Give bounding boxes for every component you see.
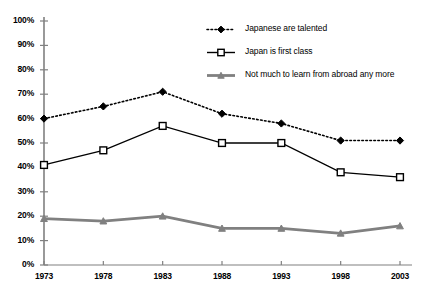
y-axis-tick-label: 50% (0, 137, 34, 147)
chart-series-group (40, 88, 403, 236)
y-axis-tick-label: 10% (0, 235, 34, 245)
chart-plot-area (0, 0, 423, 300)
y-axis-tick-label: 90% (0, 39, 34, 49)
legend-label: Japanese are talented (245, 23, 327, 33)
series-3 (41, 213, 404, 236)
data-point-diamond (396, 137, 403, 144)
x-axis-tick-label: 1983 (143, 271, 183, 281)
y-axis-tick-label: 0% (0, 259, 34, 269)
y-axis-tick-label: 40% (0, 161, 34, 171)
legend-label: Japan is first class (245, 46, 312, 56)
y-axis-tick-label: 100% (0, 15, 34, 25)
legend-marker-icon (205, 70, 241, 81)
legend-marker-icon (205, 24, 241, 35)
data-point-diamond (337, 137, 344, 144)
x-axis-tick-label: 1978 (83, 271, 123, 281)
y-axis-tick-label: 20% (0, 210, 34, 220)
x-axis-tick-label: 1973 (24, 271, 64, 281)
data-point-square (41, 162, 48, 169)
data-point-diamond (278, 120, 285, 127)
x-axis-tick-label: 1993 (261, 271, 301, 281)
data-point-diamond (40, 115, 47, 122)
data-point-square (337, 169, 344, 176)
y-axis-tick-label: 30% (0, 186, 34, 196)
legend-marker-icon (205, 47, 241, 58)
series-1 (40, 88, 403, 144)
x-axis-tick-label: 2003 (380, 271, 420, 281)
legend-label: Not much to learn from abroad any more (245, 69, 394, 79)
data-point-diamond (218, 110, 225, 117)
x-axis-tick-label: 1988 (202, 271, 242, 281)
x-axis-tick-label: 1998 (321, 271, 361, 281)
series-line (44, 126, 400, 177)
line-chart: 0%10%20%30%40%50%60%70%80%90%100% 197319… (0, 0, 423, 300)
data-point-square (159, 123, 166, 130)
legend-marker-square (218, 49, 224, 55)
series-2 (41, 123, 404, 181)
data-point-square (100, 147, 107, 154)
y-axis-tick-label: 80% (0, 64, 34, 74)
data-point-square (278, 140, 285, 147)
legend-marker-diamond (218, 26, 225, 33)
data-point-square (397, 174, 404, 181)
y-axis-tick-label: 70% (0, 88, 34, 98)
data-point-diamond (100, 103, 107, 110)
data-point-diamond (159, 88, 166, 95)
y-axis-tick-label: 60% (0, 113, 34, 123)
data-point-square (219, 140, 226, 147)
